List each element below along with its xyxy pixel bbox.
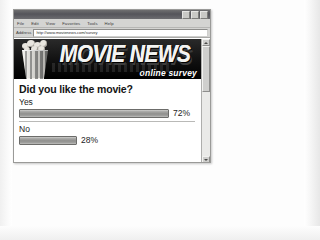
poll-bar-row-yes: 72%	[19, 108, 195, 118]
browser-addressbar: Address http://www.movienews.com/survey	[14, 28, 210, 38]
scrollbar-track[interactable]	[202, 46, 210, 156]
scroll-up-arrow-icon[interactable]	[202, 39, 210, 46]
scroll-down-arrow-icon[interactable]	[202, 156, 210, 163]
address-label: Address	[16, 30, 31, 35]
browser-menubar: File Edit View Favorites Tools Help	[14, 19, 210, 28]
address-input[interactable]: http://www.movienews.com/survey	[33, 29, 208, 37]
close-button[interactable]	[200, 11, 208, 19]
page-edge-left	[0, 0, 12, 173]
menu-item-help[interactable]: Help	[105, 21, 114, 26]
minimize-button[interactable]	[182, 11, 190, 19]
poll-question: Did you like the movie?	[19, 83, 195, 96]
popcorn-bucket-shading	[22, 50, 48, 78]
vertical-scrollbar[interactable]	[201, 39, 210, 163]
browser-viewport: MOVIE NEWS online survey Did you like th…	[14, 39, 201, 163]
window-controls	[182, 11, 208, 19]
browser-window: File Edit View Favorites Tools Help Addr…	[13, 9, 211, 163]
poll-bar-yes	[19, 109, 169, 118]
address-url-text: http://www.movienews.com/survey	[36, 30, 97, 35]
site-wordmark: MOVIE NEWS	[60, 41, 191, 67]
menu-item-favorites[interactable]: Favorites	[62, 21, 80, 26]
scrollbar-thumb[interactable]	[202, 46, 210, 92]
menu-item-tools[interactable]: Tools	[87, 21, 97, 26]
maximize-button[interactable]	[191, 11, 199, 19]
poll-panel: Did you like the movie? Yes 72% No	[14, 79, 201, 145]
browser-viewport-wrap: MOVIE NEWS online survey Did you like th…	[14, 38, 210, 163]
poll-percent-yes: 72%	[173, 108, 190, 118]
poll-option-no: No 28%	[19, 124, 195, 145]
poll-percent-no: 28%	[81, 135, 98, 145]
poll-divider	[19, 121, 195, 122]
menu-item-edit[interactable]: Edit	[31, 21, 39, 26]
poll-option-yes: Yes 72%	[19, 97, 195, 118]
poll-option-label-yes: Yes	[19, 97, 195, 107]
poll-bar-row-no: 28%	[19, 135, 195, 145]
popcorn-bucket-icon	[19, 40, 53, 79]
poll-option-label-no: No	[19, 124, 195, 134]
site-subtitle: online survey	[140, 69, 197, 78]
site-masthead: MOVIE NEWS online survey	[14, 39, 201, 79]
page-backdrop: File Edit View Favorites Tools Help Addr…	[0, 0, 227, 173]
menu-item-view[interactable]: View	[46, 21, 55, 26]
browser-titlebar[interactable]	[14, 10, 210, 19]
poll-bar-no	[19, 136, 77, 145]
menu-item-file[interactable]: File	[17, 21, 24, 26]
